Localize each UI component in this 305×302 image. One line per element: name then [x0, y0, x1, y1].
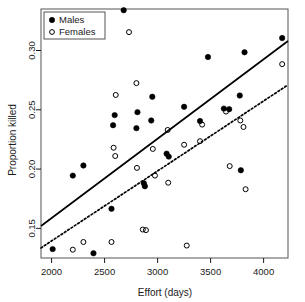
y-tick-label: 0.20	[26, 160, 37, 179]
y-tick-label: 0.30	[26, 41, 37, 60]
data-point-males	[238, 168, 243, 173]
chart-canvas: 20002500300035004000 0.150.200.250.30 Ma…	[0, 0, 305, 302]
data-point-males	[110, 123, 115, 128]
legend-label-males: Males	[59, 14, 85, 25]
data-point-males	[205, 54, 210, 59]
x-tick-label: 2000	[41, 266, 62, 277]
y-tick-label: 0.25	[26, 101, 37, 120]
y-axis-label: Proportion killed	[7, 104, 18, 176]
data-point-males	[149, 118, 154, 123]
data-point-males	[237, 93, 242, 98]
data-point-males	[135, 109, 140, 114]
x-tick-label: 3500	[200, 266, 221, 277]
data-point-males	[91, 251, 96, 256]
data-point-males	[142, 184, 147, 189]
data-point-males	[112, 112, 117, 117]
data-point-males	[150, 94, 155, 99]
data-point-males	[70, 173, 75, 178]
data-point-males	[109, 206, 114, 211]
data-point-males	[242, 50, 247, 55]
data-point-males	[279, 35, 284, 40]
data-point-males	[166, 154, 171, 159]
data-point-males	[121, 7, 126, 12]
y-tick-label: 0.15	[26, 219, 37, 238]
legend-label-females: Females	[59, 26, 96, 37]
x-tick-label: 4000	[253, 266, 274, 277]
data-point-males	[50, 246, 55, 251]
x-tick-label: 3000	[147, 266, 168, 277]
data-point-males	[81, 163, 86, 168]
data-point-males	[181, 104, 186, 109]
scatter-plot-figure: 20002500300035004000 0.150.200.250.30 Ma…	[0, 0, 305, 302]
x-axis-label: Effort (days)	[138, 287, 192, 298]
x-tick-label: 2500	[94, 266, 115, 277]
legend-marker-males	[49, 17, 54, 22]
chart-legend: MalesFemales	[44, 12, 105, 39]
data-point-males	[134, 125, 139, 130]
